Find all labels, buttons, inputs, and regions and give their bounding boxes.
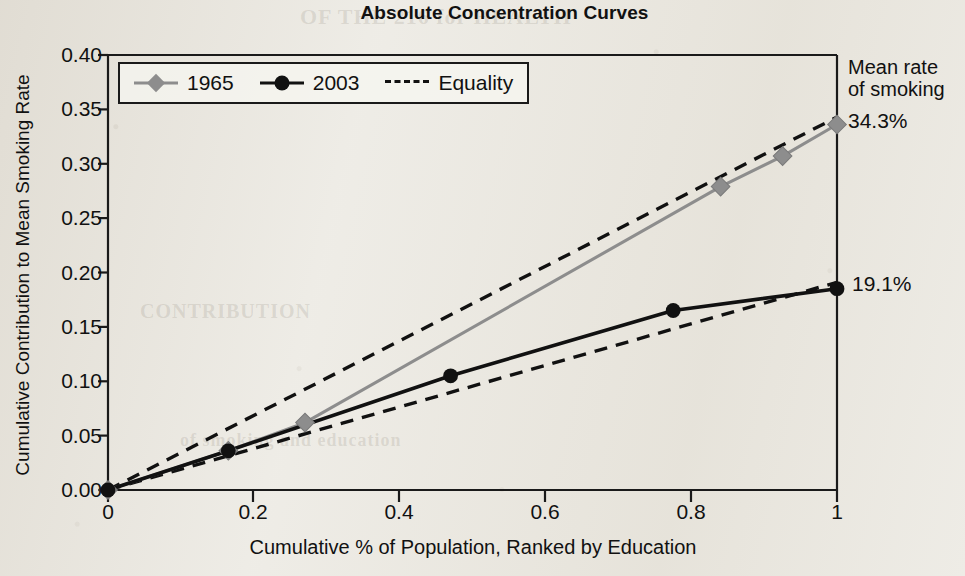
- x-tick-label: 1: [831, 500, 843, 524]
- endpoint-label-2003: 19.1%: [852, 272, 912, 296]
- legend-label-2003: 2003: [313, 71, 360, 95]
- legend-label-equality: Equality: [438, 71, 513, 95]
- legend-label-1965: 1965: [187, 71, 234, 95]
- series-markers-1965: [99, 115, 847, 499]
- absolute-concentration-curves-chart: Absolute Concentration Curves: [0, 0, 965, 576]
- legend-item-2003[interactable]: 2003: [260, 71, 360, 95]
- x-tick-label: 0.4: [384, 500, 413, 524]
- y-axis-title: Cumulative Contribution to Mean Smoking …: [12, 40, 34, 510]
- y-tick-label: 0.30: [24, 152, 102, 176]
- legend-item-1965[interactable]: 1965: [134, 71, 234, 95]
- legend-item-equality[interactable]: Equality: [385, 71, 513, 95]
- y-tick-label: 0.15: [24, 315, 102, 339]
- y-tick-label: 0.05: [24, 424, 102, 448]
- mean-rate-annotation: Mean rate of smoking: [848, 56, 945, 101]
- y-tick-label: 0.35: [24, 97, 102, 121]
- x-tick-label: 0.2: [238, 500, 267, 524]
- y-tick-label: 0.25: [24, 206, 102, 230]
- x-tick-label: 0.8: [676, 500, 705, 524]
- diamond-marker-icon: [134, 75, 178, 91]
- mean-rate-line-1: Mean rate: [848, 56, 945, 78]
- y-tick-label: 0.20: [24, 261, 102, 285]
- y-tick-label: 0.10: [24, 369, 102, 393]
- x-axis-tick-labels: 0 0.2 0.4 0.6 0.8 1: [0, 500, 965, 530]
- plot-frame: [108, 55, 837, 490]
- chart-legend: 1965 2003 Equality: [118, 62, 529, 104]
- x-tick-label: 0: [102, 500, 114, 524]
- y-tick-label: 0.40: [24, 43, 102, 67]
- x-axis-title: Cumulative % of Population, Ranked by Ed…: [108, 536, 838, 559]
- mean-rate-line-2: of smoking: [848, 78, 945, 100]
- dashed-line-icon: [385, 75, 429, 91]
- x-tick-label: 0.6: [530, 500, 559, 524]
- endpoint-label-1965: 34.3%: [848, 109, 908, 133]
- equality-line-lower: [108, 282, 837, 490]
- circle-marker-icon: [260, 75, 304, 91]
- y-tick-label: 0.00: [24, 478, 102, 502]
